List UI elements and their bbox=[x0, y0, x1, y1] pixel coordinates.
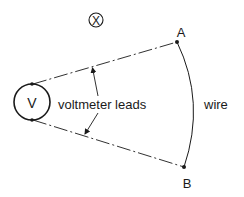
point-a-dot bbox=[175, 40, 179, 44]
point-a-label: A bbox=[177, 25, 186, 40]
voltmeter-label: V bbox=[27, 95, 37, 111]
wire-arc bbox=[177, 42, 193, 167]
lower-voltmeter-lead bbox=[33, 120, 184, 167]
circuit-diagram: X V A B voltmeter leads wire bbox=[0, 0, 244, 197]
voltmeter: V bbox=[14, 82, 50, 122]
field-into-page-icon: X bbox=[89, 13, 103, 28]
point-b-dot bbox=[182, 165, 186, 169]
point-b-label: B bbox=[183, 176, 192, 191]
wire-label: wire bbox=[203, 97, 228, 112]
voltmeter-leads-label: voltmeter leads bbox=[58, 97, 147, 112]
lower-lead-arrow bbox=[85, 113, 98, 134]
upper-lead-arrow bbox=[93, 68, 99, 96]
field-symbol-text: X bbox=[92, 14, 100, 28]
upper-voltmeter-lead bbox=[33, 42, 177, 84]
